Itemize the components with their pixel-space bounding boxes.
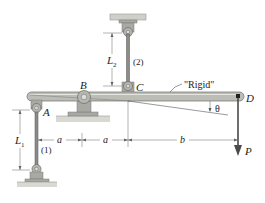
label-rigid: "Rigid" bbox=[184, 79, 214, 90]
pin-b bbox=[78, 91, 91, 104]
label-load-p: P bbox=[244, 145, 252, 157]
rigid-bar bbox=[27, 92, 244, 101]
label-dim-a2: a bbox=[103, 134, 108, 145]
rod-1 bbox=[35, 112, 38, 167]
label-pin-b: B bbox=[80, 79, 87, 91]
label-theta: θ bbox=[215, 103, 220, 114]
rod-2 bbox=[127, 34, 130, 84]
ground-a bbox=[17, 165, 57, 188]
label-point-d: D bbox=[245, 92, 254, 104]
deflection-line bbox=[128, 101, 228, 115]
label-rod-1: (1) bbox=[41, 145, 52, 155]
label-pin-c: C bbox=[136, 81, 144, 93]
rigid-leader bbox=[170, 84, 182, 92]
label-dim-a1: a bbox=[57, 134, 62, 145]
label-length-1-sub: 1 bbox=[21, 141, 25, 149]
pin-a bbox=[31, 100, 42, 113]
load-arrow bbox=[234, 98, 242, 156]
rigid-bar-diagram: B C A D (2) (1) "Rigid" θ P a a b L 1 L … bbox=[0, 0, 265, 203]
label-pin-a: A bbox=[42, 106, 50, 118]
point-d bbox=[236, 94, 240, 98]
pin-c bbox=[122, 82, 134, 94]
label-rod-2: (2) bbox=[133, 57, 144, 67]
label-dim-b: b bbox=[180, 134, 185, 145]
label-length-2-sub: 2 bbox=[113, 61, 117, 69]
